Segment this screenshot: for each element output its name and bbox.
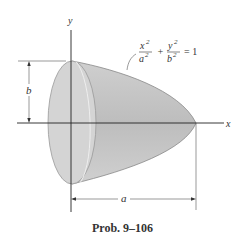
- svg-text:y: y: [167, 40, 173, 51]
- svg-text:2: 2: [145, 51, 149, 59]
- svg-text:b: b: [167, 53, 172, 64]
- svg-text:2: 2: [174, 38, 178, 46]
- svg-text:2: 2: [173, 51, 177, 59]
- front-face: [48, 61, 96, 184]
- x-axis-label: x: [225, 118, 231, 129]
- ellipse-equation: x 2 a 2 + y 2 b 2 = 1: [139, 38, 197, 64]
- b-arrow-bottom: [27, 118, 30, 123]
- y-axis-label: y: [67, 15, 73, 26]
- svg-text:+: +: [157, 46, 164, 57]
- problem-caption: Prob. 9–106: [92, 221, 153, 235]
- a-arrow-right: [191, 197, 196, 200]
- b-arrow-top: [27, 61, 30, 66]
- paraboloid-diagram: y x b a x 2 a 2 + y 2 b 2 = 1 Prob. 9–10…: [0, 0, 245, 238]
- svg-text:= 1: = 1: [184, 46, 197, 57]
- a-dimension-label: a: [121, 192, 127, 204]
- svg-text:2: 2: [146, 38, 150, 46]
- svg-text:a: a: [139, 53, 144, 64]
- equation-leader: [127, 54, 136, 70]
- b-dimension-label: b: [26, 84, 32, 96]
- a-arrow-left: [71, 197, 76, 200]
- svg-text:x: x: [139, 40, 145, 51]
